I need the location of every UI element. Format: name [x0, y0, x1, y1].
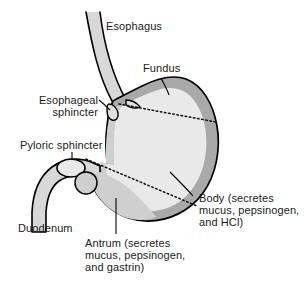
- label-fundus: Fundus: [143, 62, 180, 75]
- label-body-line2: mucus, pepsinogen,: [199, 204, 299, 217]
- stomach-diagram-figure: Esophagus Fundus Esophageal sphincter Py…: [0, 0, 306, 289]
- label-esophageal-sphincter-line1: Esophageal: [0, 94, 98, 107]
- label-pyloric-sphincter: Pyloric sphincter: [20, 139, 102, 152]
- label-antrum-line1: Antrum (secretes: [85, 237, 170, 250]
- label-esophagus: Esophagus: [106, 20, 162, 33]
- label-antrum-line2: mucus, pepsinogen,: [85, 249, 185, 262]
- label-antrum-line3: and gastrin): [85, 261, 144, 274]
- label-duodenum: Duodenum: [18, 222, 73, 235]
- label-body-line3: and HCl): [199, 216, 243, 229]
- label-esophageal-sphincter-line2: sphincter: [0, 106, 98, 119]
- label-body-line1: Body (secretes: [199, 192, 274, 205]
- pyloric-valve-nub: [75, 172, 97, 194]
